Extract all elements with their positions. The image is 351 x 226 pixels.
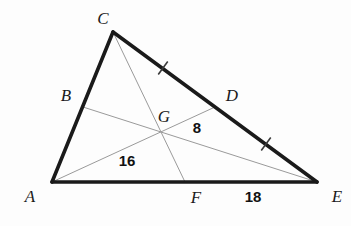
- measure-label-gd: 8: [193, 119, 201, 136]
- triangle-outline-group: [52, 32, 317, 182]
- measure-label-ag: 16: [119, 152, 136, 169]
- median-group: [52, 32, 317, 182]
- geometry-figure: A C E B D F G 16 8 18: [0, 0, 351, 226]
- measure-label-fe: 18: [245, 188, 262, 205]
- triangle-diagram-canvas: A C E B D F G 16 8 18: [0, 0, 351, 226]
- triangle-side-ac: [52, 32, 113, 182]
- midpoint-label-b: B: [61, 86, 72, 105]
- vertex-label-e: E: [331, 187, 343, 206]
- vertex-label-a: A: [24, 187, 36, 206]
- vertex-label-c: C: [97, 9, 109, 28]
- midpoint-label-d: D: [225, 86, 239, 105]
- triangle-side-ce: [113, 32, 317, 182]
- centroid-label-g: G: [158, 107, 170, 126]
- midpoint-label-f: F: [190, 188, 202, 207]
